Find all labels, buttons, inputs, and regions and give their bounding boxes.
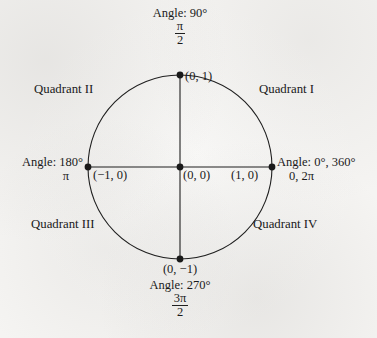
point-marker-right (269, 164, 276, 171)
angle-label-top: Angle: 90° π 2 (120, 6, 240, 47)
point-marker-left (85, 164, 92, 171)
angle-label-right: Angle: 0°, 360° 0, 2π (277, 155, 377, 184)
quadrant-label-4: Quadrant IV (253, 217, 317, 231)
quadrant-label-3: Quadrant III (31, 217, 95, 231)
angle-left-degrees: Angle: 180° (0, 155, 83, 169)
angle-top-radians-fraction: π 2 (175, 20, 185, 47)
coordinate-label-right: (1, 0) (231, 168, 258, 182)
angle-bottom-radians-numerator: 3π (172, 292, 189, 306)
angle-bottom-degrees: Angle: 270° (120, 278, 240, 292)
quadrant-label-1: Quadrant I (259, 82, 314, 96)
unit-circle-figure: Angle: 90° π 2 Angle: 0°, 360° 0, 2π Ang… (0, 0, 377, 338)
angle-left-radians: π (0, 169, 83, 183)
angle-bottom-radians-fraction: 3π 2 (172, 292, 189, 319)
angle-label-left: Angle: 180° π (0, 155, 83, 184)
coordinate-label-left: (−1, 0) (93, 168, 127, 182)
angle-right-radians: 0, 2π (277, 169, 377, 183)
angle-right-degrees: Angle: 0°, 360° (277, 155, 377, 169)
angle-top-radians-numerator: π (175, 20, 185, 34)
coordinate-label-top: (0, 1) (185, 69, 212, 83)
angle-top-degrees: Angle: 90° (120, 6, 240, 20)
coordinate-label-bottom: (0, −1) (142, 262, 218, 276)
coordinate-label-center: (0, 0) (183, 168, 210, 182)
quadrant-label-2: Quadrant II (34, 82, 93, 96)
angle-label-bottom: Angle: 270° 3π 2 (120, 278, 240, 319)
angle-top-radians-denominator: 2 (175, 34, 185, 47)
angle-bottom-radians-denominator: 2 (172, 306, 189, 319)
point-marker-top (177, 72, 184, 79)
